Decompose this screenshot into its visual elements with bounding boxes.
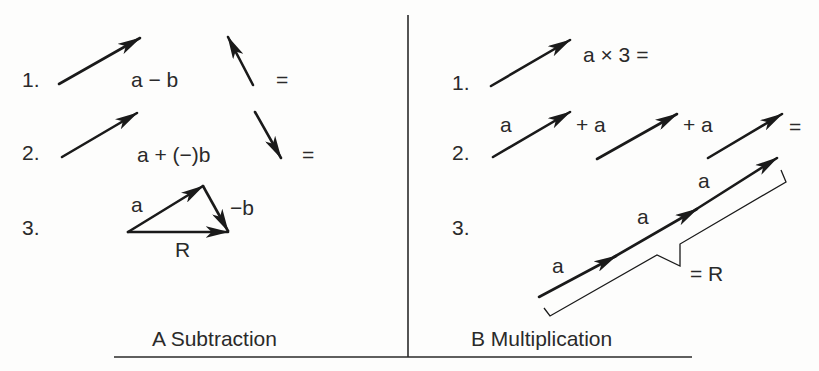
equals-sign: = xyxy=(302,143,314,166)
label-equals-r: = R xyxy=(690,262,723,285)
vector-neg-b-arrow-icon xyxy=(255,112,281,158)
panel-multiplication: 1. a × 3 = 2. a + a + a = 3. xyxy=(452,40,801,350)
vector-a-arrow-icon xyxy=(62,113,137,157)
term-a: a xyxy=(500,113,512,136)
term-plus-a: + a xyxy=(576,113,606,136)
vector-a-arrow-icon xyxy=(59,38,140,84)
vector-a-arrow-icon xyxy=(539,256,616,297)
equals-sign: = xyxy=(789,115,801,138)
multiplication-row-2: 2. a + a + a = xyxy=(452,112,801,164)
brace-resultant xyxy=(544,170,786,316)
caption-multiplication: B Multiplication xyxy=(471,327,612,350)
panel-subtraction: 1. a − b = 2. a + (−)b = 3. a xyxy=(22,37,314,350)
row-index: 1. xyxy=(22,68,40,91)
vector-a-arrow-icon xyxy=(614,209,697,257)
vector-b-arrow-icon xyxy=(228,37,253,85)
row-index: 1. xyxy=(452,71,470,94)
label-a: a xyxy=(131,193,143,216)
multiplication-row-1: 1. a × 3 = xyxy=(452,40,648,94)
term-plus-a: + a xyxy=(683,113,713,136)
subtraction-row-1: 1. a − b = xyxy=(22,37,288,91)
expression-a-plus-neg-b: a + (−)b xyxy=(137,143,211,166)
vector-neg-b-arrow-icon xyxy=(203,186,228,231)
label-a: a xyxy=(637,205,649,228)
row-index: 2. xyxy=(452,141,470,164)
row-index: 3. xyxy=(452,216,470,239)
subtraction-row-3: 3. a −b R xyxy=(22,186,254,261)
vector-a-arrow-icon xyxy=(708,114,782,158)
vector-a-arrow-icon xyxy=(491,40,570,86)
equals-sign: = xyxy=(276,68,288,91)
subtraction-row-2: 2. a + (−)b = xyxy=(22,112,314,166)
row-index: 2. xyxy=(22,141,40,164)
label-neg-b: −b xyxy=(230,196,254,219)
row-index: 3. xyxy=(22,216,40,239)
label-r: R xyxy=(175,238,190,261)
multiplication-row-3: 3. a a a = R xyxy=(452,158,786,316)
expression-a-times-3: a × 3 = xyxy=(583,43,648,66)
expression-a-minus-b: a − b xyxy=(131,68,178,91)
vector-a-arrow-icon xyxy=(597,114,677,159)
label-a: a xyxy=(552,254,564,277)
vector-operations-diagram: 1. a − b = 2. a + (−)b = 3. a xyxy=(0,0,819,371)
label-a: a xyxy=(698,169,710,192)
caption-subtraction: A Subtraction xyxy=(152,327,277,350)
